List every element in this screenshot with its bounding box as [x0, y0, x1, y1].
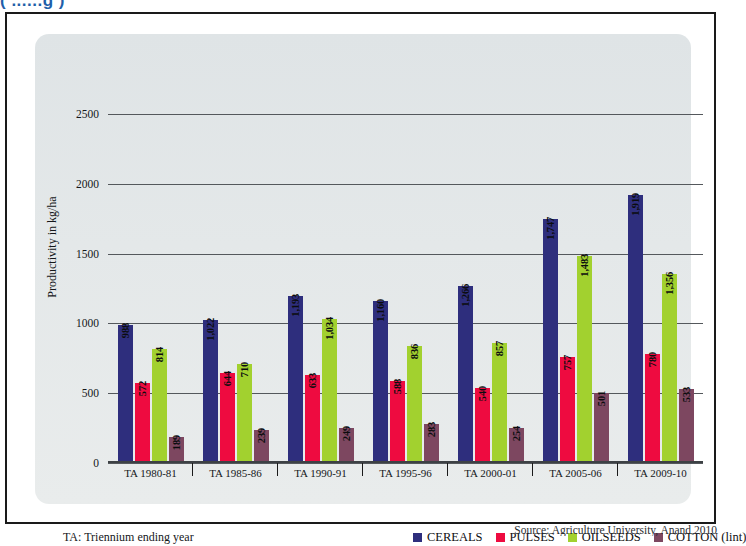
bar[interactable]: 644 — [220, 373, 235, 463]
bar[interactable]: 757 — [560, 357, 575, 463]
bar-value-label: 988 — [114, 315, 125, 330]
bar[interactable]: 857 — [492, 343, 507, 463]
bar-value-label: 239 — [250, 420, 261, 435]
bar-value-label: 501 — [590, 383, 601, 398]
bar[interactable]: 533 — [679, 389, 694, 463]
x-axis-tick-label: TA 1990-91 — [278, 467, 363, 485]
bar[interactable]: 239 — [254, 430, 269, 463]
bar[interactable]: 988 — [118, 325, 133, 463]
bar[interactable]: 540 — [475, 388, 490, 463]
bar[interactable]: 1,919 — [628, 195, 643, 463]
bar-value-label: 540 — [471, 378, 482, 393]
bar[interactable]: 1,747 — [543, 219, 558, 463]
bar[interactable]: 1,483 — [577, 256, 592, 463]
bar-group: 1,160588836283 — [363, 86, 448, 463]
gridline — [108, 463, 703, 464]
plot-area: 05001000150020002500 9885728141891,02264… — [108, 86, 703, 463]
bar-value-label: 1,034 — [318, 305, 329, 328]
bar-value-label: 633 — [301, 365, 312, 380]
chart-canvas: Productivity in kg/ha 050010001500200025… — [35, 34, 691, 504]
bar[interactable]: 1,022 — [203, 320, 218, 463]
bar[interactable]: 814 — [152, 349, 167, 463]
cut-off-page-heading: ( ......g ) — [0, 0, 725, 11]
bar[interactable]: 1,266 — [458, 286, 473, 463]
bar-value-label: 857 — [488, 334, 499, 349]
bar-value-label: 283 — [420, 414, 431, 429]
bar-value-label: 249 — [335, 419, 346, 434]
bar[interactable]: 836 — [407, 346, 422, 463]
y-axis-tick-label: 0 — [93, 457, 99, 469]
bar-group: 1,266540857254 — [448, 86, 533, 463]
bar[interactable]: 633 — [305, 375, 320, 463]
bar-value-label: 533 — [675, 379, 686, 394]
y-axis-tick-label: 2500 — [76, 108, 99, 120]
bar-value-label: 644 — [216, 364, 227, 379]
bar-group: 1,7477571,483501 — [533, 86, 618, 463]
bar-value-label: 588 — [386, 371, 397, 386]
bar-group: 1,9197801,356533 — [618, 86, 703, 463]
bar[interactable]: 780 — [645, 354, 660, 463]
bar[interactable]: 588 — [390, 381, 405, 463]
bar[interactable]: 710 — [237, 364, 252, 463]
bar-group: 1,022644710239 — [193, 86, 278, 463]
bar-value-label: 1,356 — [658, 260, 669, 283]
bar[interactable]: 501 — [594, 393, 609, 463]
y-axis-tick-label: 1000 — [76, 317, 99, 329]
x-axis-tick-label: TA 2005-06 — [533, 467, 618, 485]
bar-value-label: 572 — [131, 374, 142, 389]
source-citation: Source: Agriculture University, Anand 20… — [0, 524, 725, 536]
y-axis-tick-label: 2000 — [76, 178, 99, 190]
bar-value-label: 1,160 — [369, 288, 380, 311]
bar-value-label: 710 — [233, 354, 244, 369]
x-axis-labels: TA 1980-81TA 1985-86TA 1990-91TA 1995-96… — [108, 467, 703, 485]
x-axis-line — [108, 461, 703, 463]
bar[interactable]: 1,356 — [662, 274, 677, 463]
bar[interactable]: 572 — [135, 383, 150, 463]
bar-value-label: 189 — [165, 427, 176, 442]
x-axis-tick-label: TA 1985-86 — [193, 467, 278, 485]
bar-group: 988572814189 — [108, 86, 193, 463]
x-axis-tick-label: TA 2000-01 — [448, 467, 533, 485]
bar[interactable]: 189 — [169, 437, 184, 463]
bar-value-label: 254 — [505, 418, 516, 433]
bar-value-label: 757 — [556, 348, 567, 363]
y-axis-title: Productivity in kg/ha — [45, 196, 60, 297]
bar-value-label: 836 — [403, 337, 414, 352]
bar-value-label: 780 — [641, 345, 652, 360]
bar-value-label: 1,919 — [624, 182, 635, 205]
x-axis-tick-label: TA 1980-81 — [108, 467, 193, 485]
bar[interactable]: 283 — [424, 424, 439, 464]
bar-value-label: 1,266 — [454, 273, 465, 296]
bar-group: 1,1936331,034249 — [278, 86, 363, 463]
figure-frame: Productivity in kg/ha 050010001500200025… — [5, 12, 716, 524]
bar-value-label: 1,747 — [539, 206, 550, 229]
bar-value-label: 1,483 — [573, 243, 584, 266]
bar-value-label: 814 — [148, 340, 159, 355]
y-axis-tick-label: 500 — [82, 387, 99, 399]
bar[interactable]: 254 — [509, 428, 524, 463]
bar-value-label: 1,022 — [199, 307, 210, 330]
bar[interactable]: 249 — [339, 428, 354, 463]
y-axis-tick-label: 1500 — [76, 248, 99, 260]
bar-groups: 9885728141891,0226447102391,1936331,0342… — [108, 86, 703, 463]
x-axis-tick-label: TA 2009-10 — [618, 467, 703, 485]
x-axis-tick-label: TA 1995-96 — [363, 467, 448, 485]
bar-value-label: 1,193 — [284, 283, 295, 306]
bar[interactable]: 1,034 — [322, 319, 337, 463]
